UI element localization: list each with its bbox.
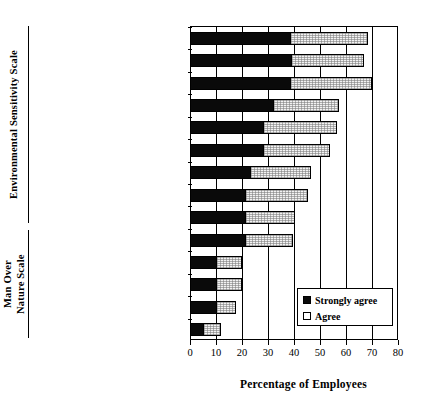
legend-swatch-strongly-agree [303, 296, 311, 304]
category-label-list: Live in harmony with natureMankind abusi… [0, 0, 187, 410]
bar-segment-strongly-agree [190, 54, 292, 67]
bar-segment-agree [290, 32, 368, 45]
bar-segment-agree [250, 166, 311, 179]
bar-segment-agree [245, 189, 309, 202]
bar-segment-strongly-agree [190, 121, 264, 134]
y-axis-tick [188, 162, 192, 163]
x-axis-tick-10 [216, 340, 217, 345]
bar-segment-agree [216, 278, 242, 291]
y-axis-tick [188, 206, 192, 207]
y-axis-tick [188, 72, 192, 73]
x-axis-tick-label-70: 70 [360, 347, 384, 358]
bar-segment-strongly-agree [190, 99, 274, 112]
x-axis-tick-label-50: 50 [308, 347, 332, 358]
x-axis-tick-60 [346, 340, 347, 345]
gridline-40 [294, 27, 295, 339]
x-axis-tick-70 [372, 340, 373, 345]
bar-row [190, 323, 221, 336]
legend-item-agree: Agree [303, 308, 388, 324]
y-axis-tick [188, 274, 192, 275]
bar-segment-strongly-agree [190, 301, 217, 314]
bar-row [190, 301, 236, 314]
x-axis-tick-20 [242, 340, 243, 345]
y-axis-tick [188, 319, 192, 320]
y-axis-tick [188, 229, 192, 230]
bar-segment-strongly-agree [190, 211, 246, 224]
bar-row [190, 77, 372, 90]
x-axis-tick-80 [398, 340, 399, 345]
bar-segment-agree [290, 77, 372, 90]
legend-label-strongly-agree: Strongly agree [315, 295, 377, 306]
x-axis-tick-label-0: 0 [178, 347, 202, 358]
y-axis-tick [188, 49, 192, 50]
bar-row [190, 121, 337, 134]
x-axis-tick-50 [320, 340, 321, 345]
bar-row [190, 256, 242, 269]
y-axis-tick [188, 27, 192, 28]
y-axis-tick [188, 184, 192, 185]
bar-segment-strongly-agree [190, 234, 246, 247]
x-axis-tick-label-60: 60 [334, 347, 358, 358]
bar-row [190, 189, 308, 202]
y-axis-tick [188, 296, 192, 297]
legend: Strongly agree Agree [297, 288, 393, 326]
x-axis-tick-label-80: 80 [386, 347, 410, 358]
x-axis-tick-30 [268, 340, 269, 345]
y-axis-tick [188, 94, 192, 95]
bar-row [190, 32, 368, 45]
x-axis-tick-label-10: 10 [204, 347, 228, 358]
bar-row [190, 144, 330, 157]
x-axis-tick-label-40: 40 [282, 347, 306, 358]
x-axis-tick-0 [190, 340, 191, 345]
bar-segment-agree [273, 99, 339, 112]
legend-swatch-agree [303, 312, 311, 320]
bar-segment-agree [263, 121, 337, 134]
bar-segment-strongly-agree [190, 189, 246, 202]
x-axis-tick-label-30: 30 [256, 347, 280, 358]
bar-segment-strongly-agree [190, 323, 204, 336]
bar-row [190, 278, 242, 291]
bar-segment-agree [216, 256, 242, 269]
y-axis-tick [188, 251, 192, 252]
stacked-bar-chart: Environmental Sensitivity Scale Man Over… [0, 0, 423, 410]
bar-row [190, 166, 311, 179]
bar-segment-agree [216, 301, 236, 314]
x-axis-title: Percentage of Employees [92, 378, 423, 390]
bar-segment-strongly-agree [190, 32, 291, 45]
y-axis-tick [188, 139, 192, 140]
gridline-30 [268, 27, 269, 339]
x-axis-tick-label-20: 20 [230, 347, 254, 358]
bar-segment-strongly-agree [190, 166, 251, 179]
bar-segment-agree [245, 234, 293, 247]
bar-segment-agree [203, 323, 221, 336]
bar-row [190, 99, 339, 112]
bar-row [190, 54, 364, 67]
legend-label-agree: Agree [315, 311, 340, 322]
bar-segment-strongly-agree [190, 256, 217, 269]
bar-segment-agree [263, 144, 331, 157]
bar-row [190, 234, 293, 247]
gridline-10 [216, 27, 217, 339]
bar-row [190, 211, 295, 224]
bar-segment-strongly-agree [190, 77, 291, 90]
gridline-20 [242, 27, 243, 339]
bar-segment-strongly-agree [190, 144, 264, 157]
legend-item-strongly-agree: Strongly agree [303, 292, 388, 308]
bar-segment-agree [245, 211, 296, 224]
y-axis-tick [188, 117, 192, 118]
bar-segment-strongly-agree [190, 278, 217, 291]
bar-segment-agree [291, 54, 364, 67]
x-axis-tick-40 [294, 340, 295, 345]
